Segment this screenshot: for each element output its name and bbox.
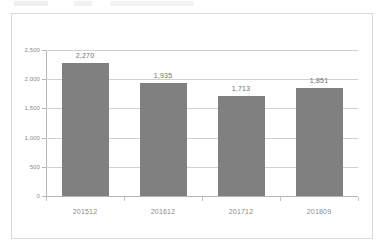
- bar-value-label: 1,935: [133, 72, 193, 79]
- cropped-top-artifact: [14, 1, 194, 6]
- category-axis-tick-mark: [202, 197, 203, 201]
- value-axis-tick-label: 2,000: [6, 76, 40, 83]
- category-axis-tick-mark: [280, 197, 281, 201]
- category-axis-label: 201512: [55, 208, 115, 215]
- bar: [218, 96, 265, 196]
- category-axis-tick-mark: [124, 197, 125, 201]
- category-axis-tick-mark: [358, 197, 359, 201]
- value-axis-tick-label: 2,500: [6, 47, 40, 54]
- value-axis-tick-label: 1,500: [6, 105, 40, 112]
- bar: [296, 88, 343, 196]
- category-axis: 201512201612201712201809: [46, 197, 358, 227]
- category-axis-tick-mark: [46, 197, 47, 201]
- value-axis-tick-label: 1,000: [6, 134, 40, 141]
- bar-value-label: 2,270: [55, 52, 115, 59]
- bar: [62, 63, 109, 196]
- category-axis-label: 201612: [133, 208, 193, 215]
- category-axis-label: 201712: [211, 208, 271, 215]
- gridline: [46, 50, 358, 51]
- bar-value-label: 1,713: [211, 85, 271, 92]
- bar-value-label: 1,851: [289, 77, 349, 84]
- bar-chart-figure: 05001,0001,5002,0002,500 2,2701,9351,713…: [0, 0, 383, 252]
- category-axis-label: 201809: [289, 208, 349, 215]
- plot-area: [46, 50, 358, 196]
- bar: [140, 83, 187, 196]
- value-axis-tick-label: 0: [6, 193, 40, 200]
- value-axis-tick-label: 500: [6, 163, 40, 170]
